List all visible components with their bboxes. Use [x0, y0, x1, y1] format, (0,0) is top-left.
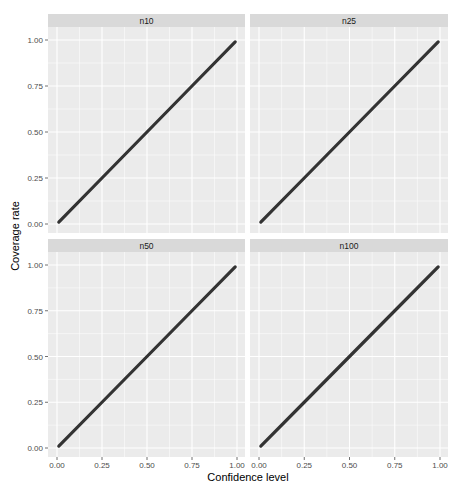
y-tick-label: 0.75 [27, 82, 43, 91]
y-tick-label: 0.00 [27, 444, 43, 453]
x-tick-label: 1.00 [432, 461, 448, 470]
y-tick-label: 0.50 [27, 128, 43, 137]
facet-label: n10 [139, 16, 153, 26]
facet-panel-n25: n25 [250, 14, 448, 233]
facet-panel-n100: n100 [250, 239, 448, 457]
y-tick-label: 1.00 [27, 36, 43, 45]
x-axis-title: Confidence level [207, 471, 288, 483]
y-tick-label: 1.00 [27, 261, 43, 270]
facet-label: n25 [342, 16, 356, 26]
y-tick-label: 0.00 [27, 220, 43, 229]
x-tick-label: 0.50 [139, 461, 155, 470]
facet-label: n100 [340, 241, 359, 251]
y-tick-label: 0.25 [27, 174, 43, 183]
x-tick-label: 0.25 [94, 461, 110, 470]
x-tick-label: 0.00 [251, 461, 267, 470]
x-tick-label: 0.75 [184, 461, 200, 470]
y-tick-label: 0.75 [27, 307, 43, 316]
x-tick-label: 0.75 [387, 461, 403, 470]
facet-panel-n50: n50 [48, 239, 245, 457]
y-tick-label: 0.50 [27, 353, 43, 362]
y-axis-title: Coverage rate [9, 201, 21, 271]
facet-panel-n10: n10 [48, 14, 245, 233]
y-tick-label: 0.25 [27, 398, 43, 407]
x-tick-label: 0.00 [49, 461, 65, 470]
x-tick-label: 1.00 [229, 461, 245, 470]
x-tick-label: 0.25 [296, 461, 312, 470]
facet-label: n50 [139, 241, 153, 251]
faceted-line-chart: n100.000.250.500.751.00n25n500.000.250.5… [0, 0, 456, 490]
x-tick-label: 0.50 [342, 461, 358, 470]
